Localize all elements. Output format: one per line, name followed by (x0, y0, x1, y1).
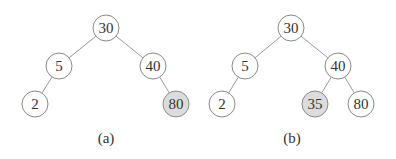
svg-text:30: 30 (284, 20, 299, 36)
tree-figure-a: 30540280(a) (22, 15, 189, 147)
tree-node-80: 80 (348, 91, 374, 117)
tree-edge (322, 77, 332, 93)
tree-figure-b: 3054023580(b) (209, 15, 374, 147)
tree-node-30: 30 (278, 15, 304, 41)
svg-text:5: 5 (241, 58, 249, 74)
tree-node-2: 2 (22, 91, 48, 117)
svg-text:2: 2 (218, 96, 226, 112)
tree-edge (160, 77, 170, 93)
tree-node-35: 35 (302, 91, 328, 117)
tree-edge (301, 36, 328, 58)
figure-caption: (a) (98, 130, 115, 147)
tree-node-2: 2 (209, 91, 235, 117)
tree-edge (69, 36, 96, 58)
svg-text:80: 80 (169, 96, 184, 112)
tree-edge (255, 36, 281, 57)
svg-text:35: 35 (308, 96, 323, 112)
tree-node-5: 5 (46, 53, 72, 79)
svg-text:80: 80 (354, 96, 369, 112)
tree-node-80: 80 (163, 91, 189, 117)
svg-text:40: 40 (146, 58, 161, 74)
tree-edge (42, 77, 52, 93)
svg-text:40: 40 (331, 58, 346, 74)
tree-edge (345, 77, 355, 93)
tree-node-5: 5 (232, 53, 258, 79)
svg-text:5: 5 (55, 58, 63, 74)
tree-node-40: 40 (140, 53, 166, 79)
tree-diagram: 30540280(a)3054023580(b) (0, 0, 396, 159)
figure-caption: (b) (283, 130, 301, 147)
svg-text:30: 30 (99, 20, 114, 36)
tree-edge (116, 36, 143, 58)
tree-node-30: 30 (93, 15, 119, 41)
svg-text:2: 2 (31, 96, 39, 112)
tree-edge (229, 77, 239, 93)
tree-node-40: 40 (325, 53, 351, 79)
